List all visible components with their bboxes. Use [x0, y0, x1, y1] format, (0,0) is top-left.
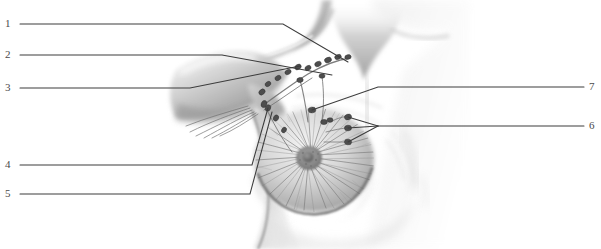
figure-root: 1 2 3 4 5 7 6 [0, 0, 601, 249]
node-central-5 [327, 118, 333, 123]
label-number-4[interactable]: 4 [5, 159, 11, 170]
sternum-shadow [366, 78, 368, 134]
nipple [302, 152, 313, 162]
suprasternal-notch [330, 0, 404, 80]
clavicle-right [392, 30, 448, 38]
label-number-3[interactable]: 3 [5, 82, 11, 93]
label-number-2[interactable]: 2 [5, 49, 11, 60]
node-supraclavicular-3 [344, 54, 351, 60]
node-central-3 [319, 73, 325, 78]
label-number-7[interactable]: 7 [589, 81, 595, 92]
node-central-4 [320, 119, 327, 125]
leader-line-5 [20, 112, 272, 194]
breast-lymphatics-illustration [0, 0, 601, 249]
node-central-1 [296, 77, 303, 83]
label-number-1[interactable]: 1 [5, 18, 11, 29]
label-number-6[interactable]: 6 [589, 120, 595, 131]
label-number-5[interactable]: 5 [5, 188, 11, 199]
